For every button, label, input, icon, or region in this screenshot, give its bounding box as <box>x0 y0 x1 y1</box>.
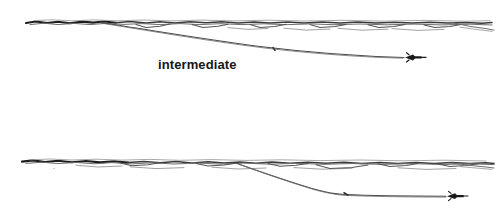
intermediate-illustration <box>0 0 498 110</box>
panel-label-intermediate: intermediate <box>158 58 237 71</box>
water-surface-icon <box>26 20 494 32</box>
panel-intermediate: intermediate <box>0 0 498 110</box>
fly-icon <box>447 191 468 200</box>
wet-tip-illustration <box>0 110 498 220</box>
fly-line-sink-diagram: intermediate <box>0 0 498 220</box>
water-surface-icon <box>22 159 494 169</box>
fly-icon <box>405 53 426 62</box>
fly-line-icon <box>100 23 404 59</box>
panel-wet-tip: wet-tip <box>0 110 498 220</box>
